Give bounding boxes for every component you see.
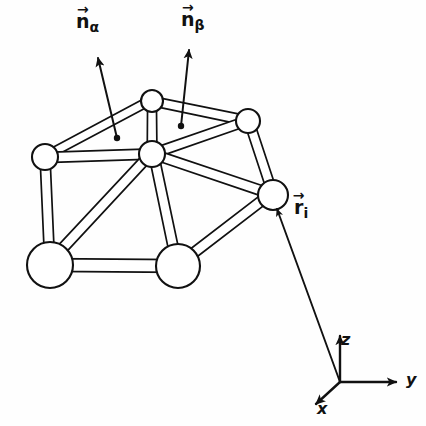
vector-arrow-icon: →	[77, 2, 89, 16]
label-normal-alpha-subscript: α	[90, 19, 100, 35]
vector-arrow-icon: →	[182, 0, 194, 14]
atom-center-hub	[139, 141, 165, 167]
axis-label-x: x	[317, 401, 327, 417]
normal-beta-arrow	[181, 50, 189, 126]
atom-left	[32, 144, 58, 170]
label-normal-beta-symbol: → n	[181, 10, 195, 29]
axis-label-y: y	[406, 372, 416, 388]
atom-upper-right	[236, 109, 260, 133]
atom-far-right	[258, 180, 288, 210]
label-normal-beta-subscript: β	[195, 17, 205, 33]
atom-top	[141, 90, 163, 112]
cluster-diagram	[0, 0, 426, 426]
position-vector-r-i-arrow	[277, 209, 340, 382]
label-position-r-i: → r i	[294, 198, 308, 220]
position-vector-layer	[277, 209, 340, 382]
bond-center-farright	[150, 149, 272, 199]
vector-arrow-icon: →	[293, 188, 305, 202]
axis-label-z: z	[341, 332, 350, 348]
label-position-r-i-symbol: → r	[294, 198, 303, 217]
label-normal-beta: → n β	[181, 10, 205, 32]
label-normal-alpha: → n α	[76, 12, 99, 34]
label-position-r-i-subscript: i	[303, 205, 308, 221]
figure-canvas: → n α → n β → r i z y x	[0, 0, 426, 426]
coordinate-axes	[316, 336, 396, 404]
label-normal-alpha-symbol: → n	[76, 12, 90, 31]
atom-front-left	[27, 242, 73, 288]
atom-front-right	[156, 244, 200, 288]
